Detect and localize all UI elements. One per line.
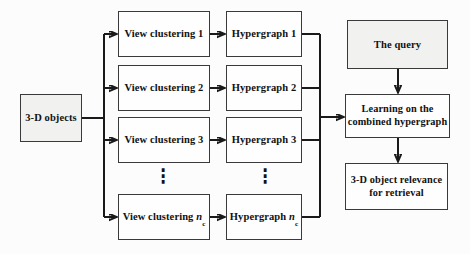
node-learning-line1: Learning on the	[362, 103, 434, 116]
node-view-clustering-1: View clustering 1	[118, 11, 210, 57]
node-the-query: The query	[347, 20, 448, 69]
node-view-clustering-2: View clustering 2	[118, 65, 210, 111]
diagram-canvas: 3-D objects View clustering 1 View clust…	[0, 0, 470, 254]
node-relevance-line1: 3-D object relevance	[351, 174, 443, 187]
node-learning-line2: combined hypergraph	[348, 116, 447, 129]
node-view-clustering-3-label: View clustering 3	[125, 133, 204, 146]
vertical-ellipsis-right: ⋮	[257, 167, 271, 187]
node-hypergraph-2-label: Hypergraph 2	[232, 81, 297, 94]
node-3d-objects: 3-D objects	[20, 94, 82, 142]
node-view-clustering-3: View clustering 3	[118, 117, 210, 163]
node-the-query-label: The query	[374, 38, 421, 51]
node-hypergraph-1: Hypergraph 1	[226, 11, 302, 57]
node-view-clustering-1-label: View clustering 1	[125, 27, 204, 40]
node-hypergraph-3-label: Hypergraph 3	[232, 133, 297, 146]
node-learning-combined-hypergraph: Learning on the combined hypergraph	[345, 94, 450, 138]
node-hypergraph-nc-label: Hypergraph nc	[230, 210, 298, 223]
node-relevance-line2: for retrieval	[369, 187, 423, 200]
node-hypergraph-3: Hypergraph 3	[226, 117, 302, 163]
node-hypergraph-1-label: Hypergraph 1	[232, 27, 297, 40]
node-hypergraph-2: Hypergraph 2	[226, 65, 302, 111]
node-3d-object-relevance: 3-D object relevance for retrieval	[345, 163, 448, 210]
vertical-ellipsis-left: ⋮	[155, 167, 169, 187]
node-3d-objects-label: 3-D objects	[25, 111, 77, 124]
node-view-clustering-nc: View clustering nc	[118, 194, 210, 240]
node-view-clustering-nc-label: View clustering nc	[123, 210, 206, 223]
node-view-clustering-2-label: View clustering 2	[125, 81, 204, 94]
node-hypergraph-nc: Hypergraph nc	[226, 194, 302, 240]
